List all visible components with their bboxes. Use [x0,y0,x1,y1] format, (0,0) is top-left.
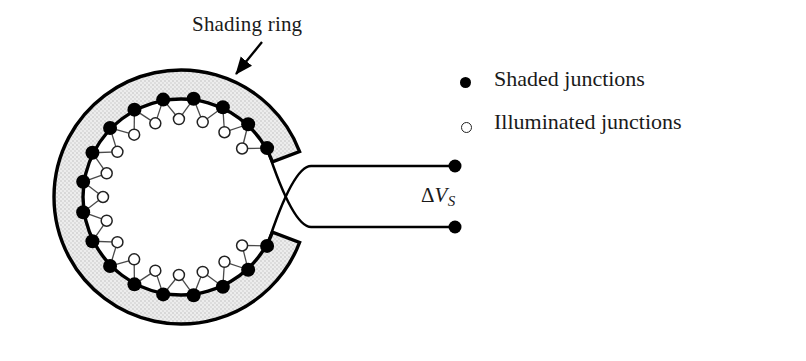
delta-symbol: Δ [421,183,435,207]
legend-label-shaded: Shaded junctions [494,66,645,92]
output-voltage-label: ΔVS [421,183,455,210]
filled-dot-icon [460,77,471,88]
voltage-subscript: S [448,193,456,209]
thermopile-ring-diagram [0,0,806,361]
shading-ring [54,70,300,324]
open-circle-icon [460,120,472,133]
legend-label-illuminated: Illuminated junctions [494,109,682,135]
shading-ring-label: Shading ring [192,12,302,37]
junction-markers [76,92,274,302]
shading-ring-callout-arrow [236,42,262,74]
figure-root: Shading ring Shaded junctions Illuminate… [0,0,806,361]
voltage-variable: V [435,183,448,207]
